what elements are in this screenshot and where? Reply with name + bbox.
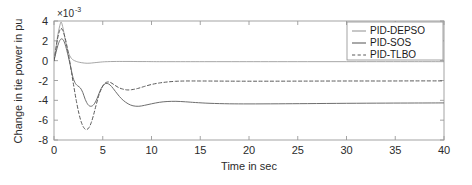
y-tick-label: 2 (42, 35, 48, 47)
x-tick-label: 40 (438, 144, 450, 156)
legend-label-pid-depso: PID-DEPSO (370, 25, 425, 36)
y-tick-label: -6 (38, 114, 48, 126)
x-tick-label: 30 (340, 144, 352, 156)
x-tick-labels: 0510152025303540 (51, 144, 450, 156)
x-tick-label: 10 (145, 144, 157, 156)
y-tick-labels: -8-6-4-2024 (38, 15, 48, 146)
y-tick-label: -2 (38, 75, 48, 87)
x-axis-label: Time in sec (221, 160, 277, 172)
y-tick-label: -8 (38, 134, 48, 146)
x-tick-label: 5 (100, 144, 106, 156)
y-axis-exponent-base: ×10 (57, 8, 74, 19)
y-tick-label: -4 (38, 94, 48, 106)
legend: PID-DEPSOPID-SOSPID-TLBO (347, 22, 443, 60)
tie-power-line-chart: 0510152025303540 -8-6-4-2024 ×10 -3 Time… (0, 0, 472, 185)
y-axis-label: Change in tie power in pu (12, 19, 24, 144)
x-tick-label: 20 (243, 144, 255, 156)
legend-label-pid-tlbo: PID-TLBO (370, 49, 416, 60)
x-tick-label: 15 (194, 144, 206, 156)
y-tick-label: 4 (42, 15, 48, 27)
y-axis-exponent-power: -3 (75, 6, 81, 13)
y-tick-label: 0 (42, 55, 48, 67)
chart-figure: 0510152025303540 -8-6-4-2024 ×10 -3 Time… (0, 0, 472, 185)
y-axis-exponent: ×10 -3 (57, 6, 81, 19)
x-tick-label: 0 (51, 144, 57, 156)
x-tick-label: 25 (292, 144, 304, 156)
legend-label-pid-sos: PID-SOS (370, 37, 411, 48)
x-tick-label: 35 (389, 144, 401, 156)
